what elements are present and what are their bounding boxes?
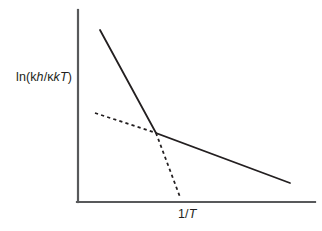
dashed-bilinear-series bbox=[95, 113, 180, 197]
eyring-plot-figure: ln(kh/κkT) 1/T bbox=[0, 0, 322, 231]
y-label-t-italic: T bbox=[60, 70, 68, 84]
y-axis-label: ln(kh/κkT) bbox=[16, 71, 72, 84]
y-label-suffix: ) bbox=[68, 70, 72, 84]
solid-bilinear-series bbox=[100, 30, 290, 183]
x-label-one-over: 1/ bbox=[178, 207, 189, 221]
y-label-h-italic: h bbox=[37, 70, 44, 84]
x-label-t-italic: T bbox=[189, 207, 197, 221]
axes-group bbox=[77, 10, 315, 202]
x-axis-label: 1/T bbox=[178, 208, 196, 221]
data-series-group bbox=[95, 30, 290, 197]
y-label-prefix: ln( bbox=[16, 70, 30, 84]
plot-canvas bbox=[0, 0, 322, 231]
